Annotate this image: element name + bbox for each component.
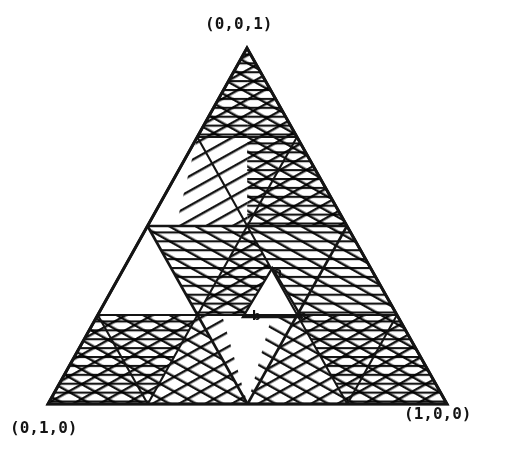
inner-vertex-label-b: b <box>252 309 261 323</box>
corner-label-bottom-left: (0,1,0) <box>10 418 77 437</box>
inner-vertex-label-c: c <box>299 309 306 323</box>
ternary-diagram <box>0 0 507 458</box>
corner-label-bottom-right: (1,0,0) <box>404 404 471 423</box>
corner-label-top: (0,0,1) <box>205 14 272 33</box>
inner-vertex-label-a: a <box>274 265 282 279</box>
